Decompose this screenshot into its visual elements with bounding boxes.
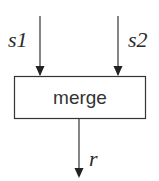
diagram-svg: s1 s2 merge r xyxy=(0,0,159,181)
input-arrow-s2 xyxy=(114,16,123,76)
output-label-r: r xyxy=(89,146,98,171)
input-arrow-s1 xyxy=(36,16,45,76)
merge-diagram: s1 s2 merge r xyxy=(0,0,159,181)
output-arrow-r xyxy=(75,119,84,178)
merge-node-label: merge xyxy=(53,87,107,108)
arrowhead-icon xyxy=(75,168,84,178)
input-label-s1: s1 xyxy=(8,27,28,52)
input-label-s2: s2 xyxy=(128,27,148,52)
arrowhead-icon xyxy=(36,66,45,76)
arrowhead-icon xyxy=(114,66,123,76)
